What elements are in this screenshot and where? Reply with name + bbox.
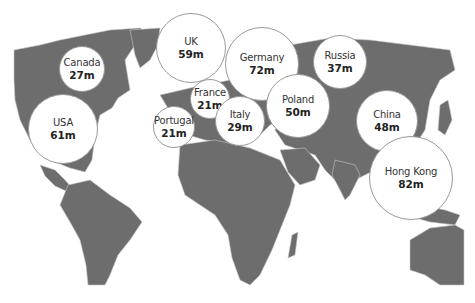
country-name: Canada: [64, 57, 101, 69]
country-value: 37m: [327, 62, 353, 75]
country-bubble-usa: USA 61m: [28, 94, 98, 164]
country-value: 72m: [249, 64, 275, 77]
country-name: Germany: [240, 52, 285, 64]
country-name: USA: [53, 117, 73, 129]
africa: [178, 140, 295, 285]
madagascar: [288, 232, 298, 258]
country-name: Portugal: [154, 115, 194, 127]
country-value: 50m: [285, 106, 311, 119]
australia: [410, 225, 464, 285]
country-bubble-russia: Russia 37m: [313, 35, 367, 89]
country-bubble-portugal: Portugal 21m: [153, 106, 195, 148]
country-bubble-poland: Poland 50m: [266, 74, 330, 138]
country-bubble-hong-kong: Hong Kong 82m: [369, 136, 453, 220]
country-value: 48m: [374, 121, 400, 134]
country-name: France: [194, 87, 226, 99]
country-name: Poland: [282, 94, 314, 106]
india: [332, 160, 360, 200]
country-bubble-canada: Canada 27m: [59, 46, 105, 92]
country-name: UK: [184, 36, 197, 48]
country-name: Hong Kong: [385, 166, 438, 178]
country-name: Russia: [325, 50, 356, 62]
japan: [438, 100, 452, 135]
country-value: 29m: [227, 121, 253, 134]
country-name: China: [373, 109, 401, 121]
country-value: 21m: [161, 127, 187, 140]
country-value: 61m: [50, 129, 76, 142]
country-value: 27m: [69, 69, 95, 82]
south-america: [60, 180, 142, 285]
country-bubble-uk: UK 59m: [156, 13, 226, 83]
country-name: Italy: [230, 109, 251, 121]
country-value: 59m: [178, 48, 204, 61]
country-bubble-italy: Italy 29m: [215, 96, 265, 146]
country-value: 82m: [398, 178, 424, 191]
